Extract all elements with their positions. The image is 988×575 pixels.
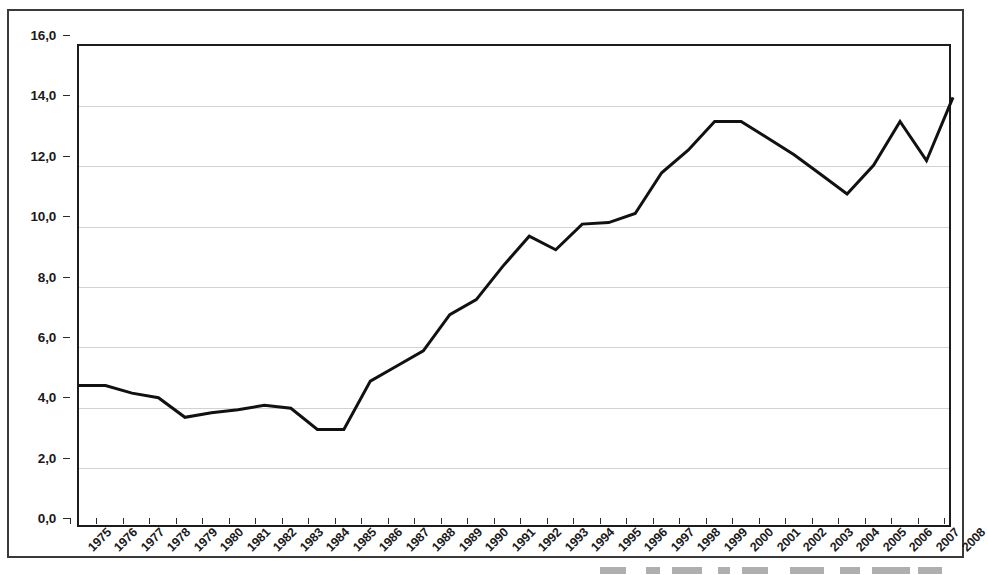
x-axis-tick-label: 1997: [669, 526, 697, 554]
x-axis-tick-label: 1978: [165, 526, 193, 554]
x-axis-tick-label: 1976: [112, 526, 140, 554]
x-axis-tick-label: 2001: [775, 526, 803, 554]
chart-outer-frame: 0,02,04,06,08,010,012,014,016,0 19751976…: [7, 9, 964, 558]
x-axis-tick-label: 1995: [616, 526, 644, 554]
x-axis-tick-label: 1985: [351, 526, 379, 554]
x-axis-tick-label: 1988: [430, 526, 458, 554]
scan-smudge: [646, 567, 660, 574]
x-axis-tick-label: 1996: [642, 526, 670, 554]
x-axis-labels: 1975197619771978197919801981198219831984…: [9, 11, 982, 575]
scan-smudge: [872, 567, 910, 574]
x-axis-tick-label: 1994: [589, 526, 617, 554]
scan-smudge: [918, 567, 942, 574]
x-axis-tick-label: 1982: [271, 526, 299, 554]
x-axis-tick-label: 1991: [510, 526, 538, 554]
x-axis-tick-label: 1975: [86, 526, 114, 554]
x-axis-tick-label: 2008: [960, 526, 988, 554]
x-axis-tick-label: 1980: [218, 526, 246, 554]
x-axis-tick-label: 1993: [563, 526, 591, 554]
x-axis-tick-label: 1979: [192, 526, 220, 554]
x-axis-tick-label: 2003: [827, 526, 855, 554]
x-axis-tick-label: 1977: [139, 526, 167, 554]
x-axis-tick-label: 1992: [536, 526, 564, 554]
x-axis-tick-label: 1990: [483, 526, 511, 554]
x-axis-tick-label: 1986: [377, 526, 405, 554]
x-axis-tick-label: 1984: [324, 526, 352, 554]
x-axis-tick-label: 2004: [854, 526, 882, 554]
x-axis-tick-label: 1987: [404, 526, 432, 554]
x-axis-tick-label: 2002: [801, 526, 829, 554]
x-axis-tick-label: 2006: [907, 526, 935, 554]
x-axis-tick-label: 1983: [298, 526, 326, 554]
x-axis-tick-label: 2000: [748, 526, 776, 554]
scan-smudge: [718, 567, 730, 574]
x-axis-tick-label: 1998: [695, 526, 723, 554]
x-axis-tick-label: 1999: [722, 526, 750, 554]
x-axis-tick-label: 1989: [457, 526, 485, 554]
x-axis-tick-label: 2005: [880, 526, 908, 554]
scan-smudge: [742, 567, 768, 574]
scan-smudge: [790, 567, 824, 574]
scan-edge-artifact: [0, 566, 973, 575]
x-axis-tick-label: 1981: [245, 526, 273, 554]
x-axis-tick-label: 2007: [933, 526, 961, 554]
scan-smudge: [600, 567, 626, 574]
scan-smudge: [840, 567, 860, 574]
scan-smudge: [672, 567, 702, 574]
